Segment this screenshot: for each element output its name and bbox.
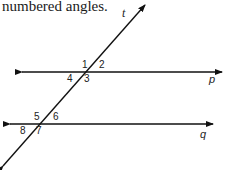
angle-7: 7 — [36, 125, 42, 136]
label-t: t — [122, 6, 126, 20]
angle-3: 3 — [84, 73, 90, 84]
angle-2: 2 — [99, 59, 105, 70]
angle-1: 1 — [82, 59, 88, 70]
parallel-lines-figure: t p q 1 2 3 4 5 6 7 8 — [0, 0, 225, 170]
angle-8: 8 — [20, 125, 26, 136]
label-p: p — [208, 73, 215, 85]
transversal-t — [3, 5, 145, 166]
label-q: q — [200, 128, 207, 140]
angle-5: 5 — [34, 111, 40, 122]
angle-4: 4 — [67, 73, 73, 84]
angle-6: 6 — [53, 111, 59, 122]
